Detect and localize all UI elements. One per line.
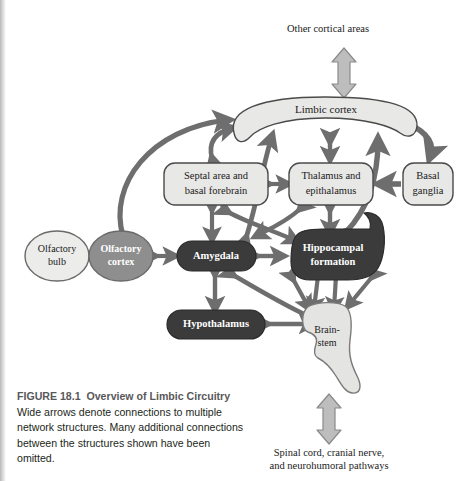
basal-ganglia-shape — [403, 163, 453, 205]
thalamus-shape — [289, 163, 373, 205]
other-cortical-areas-label: Other cortical areas — [287, 23, 369, 34]
brainstem-label-line1: Brain- — [314, 324, 340, 335]
septal-area-shape — [164, 163, 268, 205]
node-amygdala[interactable]: Amygdala — [177, 241, 256, 271]
node-limbic-cortex[interactable]: Limbic cortex — [233, 97, 417, 142]
node-olfactory-cortex[interactable]: Olfactory cortex — [89, 231, 153, 281]
hippocampal-label-line2: formation — [311, 256, 356, 267]
olfactory-bulb-label-line1: Olfactory — [38, 243, 76, 254]
node-septal-area[interactable]: Septal area and basal forebrain — [164, 163, 268, 205]
figure-number: FIGURE 18.1 — [17, 390, 81, 402]
septal-label-line2: basal forebrain — [185, 185, 248, 196]
figure-container: Brain- stem Limbic cortex Septal area an… — [0, 0, 471, 481]
limbic-cortex-label: Limbic cortex — [295, 103, 358, 115]
node-hypothalamus[interactable]: Hypothalamus — [167, 310, 265, 339]
figure-title: Overview of Limbic Circuitry — [86, 390, 230, 402]
block-arrow-top — [332, 48, 356, 98]
olfactory-cortex-label-line1: Olfactory — [100, 243, 141, 254]
thalamus-label-line1: Thalamus and — [301, 170, 361, 181]
node-olfactory-bulb[interactable]: Olfactory bulb — [25, 231, 89, 281]
amygdala-label: Amygdala — [193, 250, 240, 261]
spinal-cord-label-line2: and neurohumoral pathways — [270, 460, 389, 471]
arrow-limbic-septal — [211, 128, 232, 158]
brainstem-label-line2: stem — [318, 337, 337, 348]
figure-caption: FIGURE 18.1 Overview of Limbic Circuitry… — [17, 389, 249, 467]
hippocampal-label-line1: Hippocampal — [303, 242, 364, 253]
hypothalamus-label: Hypothalamus — [183, 318, 249, 329]
arrow-hippocampal-brainstem-4 — [348, 277, 372, 306]
spinal-cord-label-line1: Spinal cord, cranial nerve, — [274, 447, 385, 458]
node-brainstem[interactable]: Brain- stem — [303, 303, 360, 393]
connection-arrows — [120, 120, 431, 324]
node-thalamus[interactable]: Thalamus and epithalamus — [289, 163, 373, 205]
block-arrow-bottom — [317, 394, 341, 444]
arrow-hippocampal-brainstem-3 — [293, 279, 309, 308]
basal-ganglia-label-line1: Basal — [416, 170, 439, 181]
olfactory-bulb-label-line2: bulb — [48, 256, 66, 267]
thalamus-label-line2: epithalamus — [306, 185, 357, 196]
figure-body: Wide arrows denote connections to multip… — [17, 406, 243, 465]
node-hippocampal-formation[interactable]: Hippocampal formation — [291, 213, 384, 280]
olfactory-cortex-label-line2: cortex — [108, 256, 135, 267]
node-basal-ganglia[interactable]: Basal ganglia — [403, 163, 453, 205]
septal-label-line1: Septal area and — [184, 170, 249, 181]
basal-ganglia-label-line2: ganglia — [413, 185, 444, 196]
arrow-septal-hippocampal — [228, 212, 296, 241]
